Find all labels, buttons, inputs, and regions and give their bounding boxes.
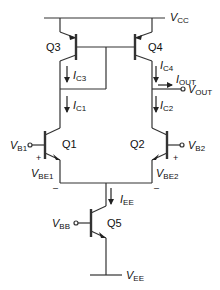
vbe2-plus: +	[173, 154, 178, 163]
q3-label: Q3	[46, 42, 61, 53]
ic4-label: IC4	[160, 60, 173, 73]
vbe1-minus: –	[53, 184, 58, 193]
vbb-label: VBB	[52, 218, 70, 231]
q5-label: Q5	[107, 218, 122, 229]
vout-label: VOUT	[188, 84, 212, 97]
iee-label: IEE	[120, 194, 134, 207]
vbe1-label: VBE1	[31, 168, 53, 181]
vbe2-minus: –	[154, 184, 159, 193]
q4-label: Q4	[148, 42, 163, 53]
vb2-label: VB2	[188, 140, 205, 153]
circuit-schematic	[0, 0, 220, 290]
q2-label: Q2	[130, 139, 145, 150]
vbe1-plus: +	[36, 154, 41, 163]
vbe2-label: VBE2	[156, 168, 178, 181]
vb1-label: VB1	[10, 140, 27, 153]
ic2-label: IC2	[160, 100, 173, 113]
vcc-label: VCC	[170, 12, 189, 25]
vee-label: VEE	[126, 270, 144, 283]
ic3-label: IC3	[73, 70, 86, 83]
ic1-label: IC1	[73, 100, 86, 113]
q1-label: Q1	[62, 139, 77, 150]
